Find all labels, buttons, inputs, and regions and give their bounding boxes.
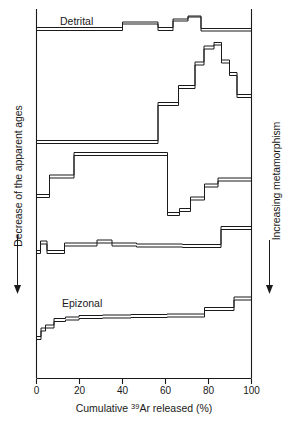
- spectrum-sample-3: [37, 153, 252, 216]
- left-arrow-head: [14, 285, 21, 294]
- x-axis-ticks: [37, 379, 252, 385]
- right-axis-label: Increasing metamorphism: [270, 91, 282, 271]
- x-axis-title-post: Ar released (%): [139, 402, 212, 414]
- x-tick-label-80: 80: [194, 385, 224, 396]
- axis-frame: [37, 9, 252, 379]
- sample4-upper-edge: [37, 230, 252, 254]
- sample2-upper-edge: [37, 45, 252, 144]
- x-axis-title: Cumulative 39Ar released (%): [36, 402, 252, 414]
- series-label-epizonal: Epizonal: [62, 297, 102, 309]
- argon-release-spectra-figure: Detrital Epizonal Decrease of the appare…: [0, 0, 287, 425]
- series-label-detrital: Detrital: [60, 15, 93, 27]
- right-arrow-head: [266, 285, 273, 294]
- left-axis-label: Decrease of the apparent ages: [12, 86, 24, 266]
- plot-area: [0, 0, 287, 425]
- x-tick-label-40: 40: [108, 385, 138, 396]
- spectrum-sample-4: [37, 227, 252, 254]
- x-tick-label-0: 0: [22, 385, 52, 396]
- sample3-upper-edge: [37, 156, 252, 216]
- spectrum-sample-2: [37, 43, 252, 144]
- x-axis-title-pre: Cumulative: [76, 402, 131, 414]
- sample2-lower-edge: [37, 43, 252, 141]
- x-tick-label-60: 60: [151, 385, 181, 396]
- x-tick-label-100: 100: [237, 385, 267, 396]
- x-tick-label-20: 20: [65, 385, 95, 396]
- sample3-lower-edge: [37, 153, 252, 213]
